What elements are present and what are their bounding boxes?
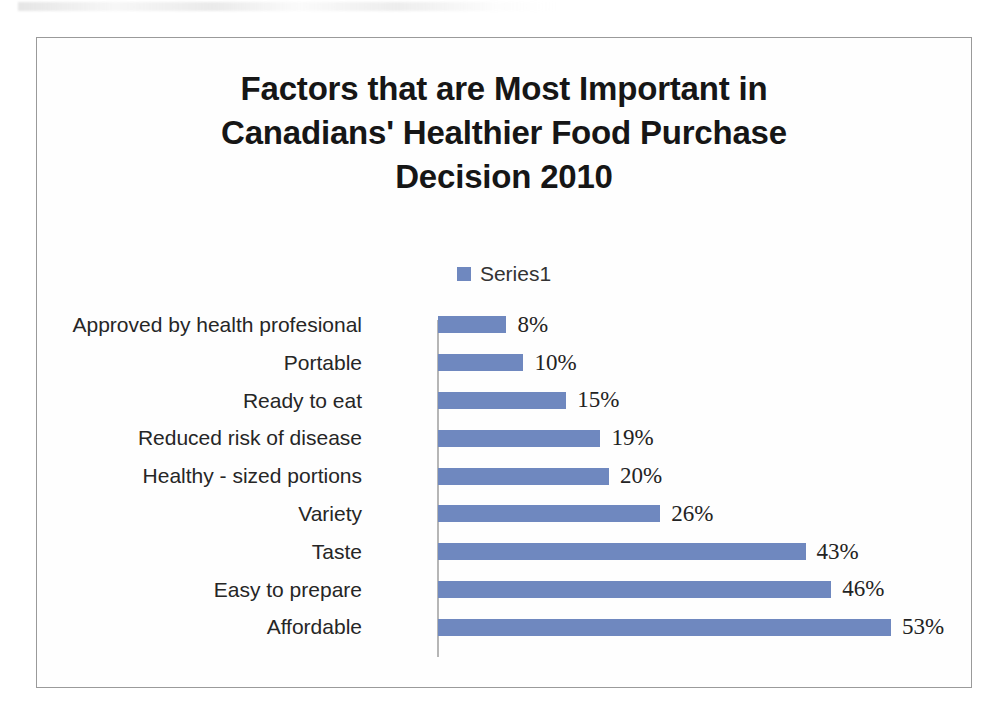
bar-value-label: 53% bbox=[902, 614, 944, 640]
category-label: Healthy - sized portions bbox=[143, 457, 362, 495]
bar-and-value: 10% bbox=[438, 344, 577, 382]
category-label: Ready to eat bbox=[243, 382, 362, 420]
bar-row: Reduced risk of disease19% bbox=[37, 419, 971, 457]
bar-and-value: 53% bbox=[438, 608, 944, 646]
chart-frame: Factors that are Most Important in Canad… bbox=[36, 37, 972, 688]
bar-and-value: 20% bbox=[438, 457, 662, 495]
bar-and-value: 15% bbox=[438, 382, 619, 420]
category-label: Easy to prepare bbox=[214, 571, 362, 609]
bar-and-value: 46% bbox=[438, 571, 884, 609]
category-label: Variety bbox=[298, 495, 362, 533]
bar-and-value: 19% bbox=[438, 419, 654, 457]
chart-title: Factors that are Most Important in Canad… bbox=[37, 67, 971, 199]
bar-and-value: 43% bbox=[438, 533, 859, 571]
bar-value-label: 15% bbox=[577, 387, 619, 413]
category-label: Approved by health profesional bbox=[72, 306, 362, 344]
legend-swatch-icon bbox=[457, 267, 471, 281]
bar-value-label: 10% bbox=[534, 350, 576, 376]
bar-value-label: 26% bbox=[671, 501, 713, 527]
bar-row: Portable10% bbox=[37, 344, 971, 382]
scan-artifact-line bbox=[18, 2, 558, 11]
bar[interactable] bbox=[438, 505, 660, 522]
bar-and-value: 8% bbox=[438, 306, 548, 344]
bar-row: Easy to prepare46% bbox=[37, 571, 971, 609]
bar-row: Variety26% bbox=[37, 495, 971, 533]
bar[interactable] bbox=[438, 316, 506, 333]
bar-value-label: 20% bbox=[620, 463, 662, 489]
bar[interactable] bbox=[438, 354, 523, 371]
chart-legend: Series1 bbox=[37, 262, 971, 286]
bar-and-value: 26% bbox=[438, 495, 713, 533]
bar-value-label: 46% bbox=[842, 576, 884, 602]
bar-row: Ready to eat15% bbox=[37, 382, 971, 420]
bar-row: Affordable53% bbox=[37, 608, 971, 646]
bar[interactable] bbox=[438, 430, 600, 447]
category-label: Taste bbox=[312, 533, 362, 571]
bar[interactable] bbox=[438, 619, 891, 636]
category-label: Portable bbox=[284, 344, 362, 382]
bar-rows-container: Approved by health profesional8%Portable… bbox=[37, 306, 971, 646]
bar-row: Approved by health profesional8% bbox=[37, 306, 971, 344]
plot-area: Approved by health profesional8%Portable… bbox=[37, 306, 971, 656]
bar-value-label: 8% bbox=[517, 312, 548, 338]
bar-value-label: 43% bbox=[817, 539, 859, 565]
bar[interactable] bbox=[438, 543, 806, 560]
bar[interactable] bbox=[438, 392, 566, 409]
category-label: Affordable bbox=[267, 608, 362, 646]
bar[interactable] bbox=[438, 581, 831, 598]
bar-row: Healthy - sized portions20% bbox=[37, 457, 971, 495]
bar-value-label: 19% bbox=[611, 425, 653, 451]
bar-row: Taste43% bbox=[37, 533, 971, 571]
legend-series-label: Series1 bbox=[480, 262, 551, 286]
category-label: Reduced risk of disease bbox=[138, 419, 362, 457]
bar[interactable] bbox=[438, 468, 609, 485]
